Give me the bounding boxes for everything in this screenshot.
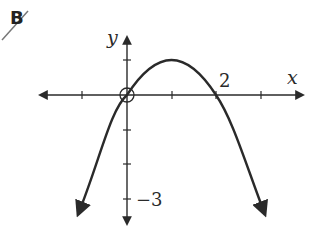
graph-canvas: B y x 2 −3 [0,0,309,228]
panel-label: B [2,7,28,40]
parabola-curve [78,60,265,214]
y-tick-label-neg3: −3 [136,189,163,210]
y-axis-label: y [106,26,118,48]
x-tick-label-2: 2 [219,70,230,91]
x-axis-label: x [287,66,298,88]
panel-letter: B [10,7,24,28]
